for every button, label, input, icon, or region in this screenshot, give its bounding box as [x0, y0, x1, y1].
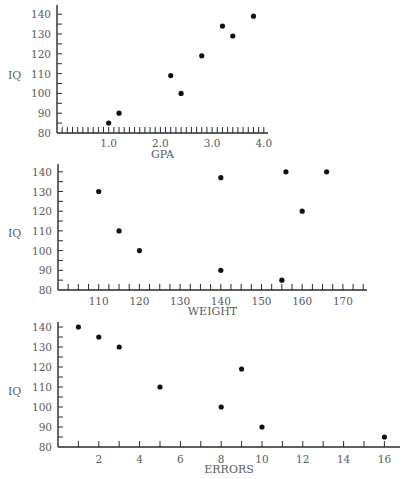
data-point [220, 23, 225, 28]
y-tick-label: 130 [31, 28, 51, 40]
data-point [76, 324, 81, 329]
data-point [218, 175, 223, 180]
data-point [218, 268, 223, 273]
y-tick-label: 110 [32, 381, 52, 393]
y-tick-label: 90 [38, 107, 51, 119]
data-point [116, 228, 121, 233]
y-tick-label: 120 [31, 48, 51, 60]
data-point [219, 404, 224, 409]
data-point [157, 384, 162, 389]
data-point [239, 366, 244, 371]
data-point [279, 278, 284, 283]
data-point [382, 434, 387, 439]
x-tick-label: 4.0 [255, 137, 272, 149]
y-tick-label: 130 [32, 341, 52, 353]
y-axis-title: IQ [8, 227, 21, 240]
data-point [251, 14, 256, 19]
x-tick-label: 1.0 [100, 137, 117, 149]
y-tick-label: 140 [31, 8, 51, 20]
x-axis-title: GPA [151, 148, 175, 161]
data-point [106, 121, 111, 126]
y-tick-label: 110 [32, 225, 52, 237]
x-axis-title: WEIGHT [188, 305, 238, 318]
y-tick-label: 100 [32, 401, 52, 413]
y-tick-label: 80 [39, 441, 52, 453]
x-tick-label: 120 [129, 295, 149, 307]
y-axis-title: IQ [8, 69, 21, 82]
y-tick-label: 80 [38, 127, 51, 139]
y-tick-label: 100 [32, 245, 52, 257]
data-point [96, 189, 101, 194]
x-tick-label: 12 [296, 453, 309, 465]
y-tick-label: 90 [39, 264, 52, 276]
data-point [230, 33, 235, 38]
data-point [168, 73, 173, 78]
data-point [283, 169, 288, 174]
y-tick-label: 120 [32, 205, 52, 217]
y-tick-label: 100 [31, 87, 51, 99]
x-tick-label: 170 [333, 295, 353, 307]
y-tick-label: 90 [39, 421, 52, 433]
data-point [178, 91, 183, 96]
scatter-plot-gpa: 80901001101201301401.02.03.04.0GPAIQ [8, 5, 272, 161]
x-tick-label: 10 [255, 453, 268, 465]
data-point [137, 248, 142, 253]
x-tick-label: 150 [251, 295, 271, 307]
iq-scatter-figure: 80901001101201301401.02.03.04.0GPAIQ8090… [0, 0, 408, 479]
scatter-plot-weight: 8090100110120130140110120130140150160170… [8, 164, 367, 318]
x-tick-label: 14 [337, 453, 351, 465]
y-axis-title: IQ [8, 385, 21, 398]
x-tick-label: 2 [95, 453, 102, 465]
data-point [96, 334, 101, 339]
y-tick-label: 130 [32, 186, 52, 198]
data-point [300, 209, 305, 214]
x-tick-label: 6 [177, 453, 184, 465]
x-tick-label: 110 [89, 295, 109, 307]
x-tick-label: 160 [292, 295, 312, 307]
x-axis-title: ERRORS [204, 463, 253, 476]
x-tick-label: 16 [378, 453, 392, 465]
data-point [117, 344, 122, 349]
y-tick-label: 120 [32, 361, 52, 373]
y-tick-label: 110 [31, 68, 51, 80]
x-tick-label: 4 [136, 453, 143, 465]
data-point [259, 424, 264, 429]
y-tick-label: 140 [32, 166, 52, 178]
data-point [199, 53, 204, 58]
data-point [116, 111, 121, 116]
y-tick-label: 140 [32, 321, 52, 333]
y-tick-label: 80 [39, 284, 52, 296]
data-point [324, 169, 329, 174]
scatter-plot-errors: 8090100110120130140246810121416ERRORSIQ [8, 321, 400, 476]
x-tick-label: 3.0 [204, 137, 221, 149]
